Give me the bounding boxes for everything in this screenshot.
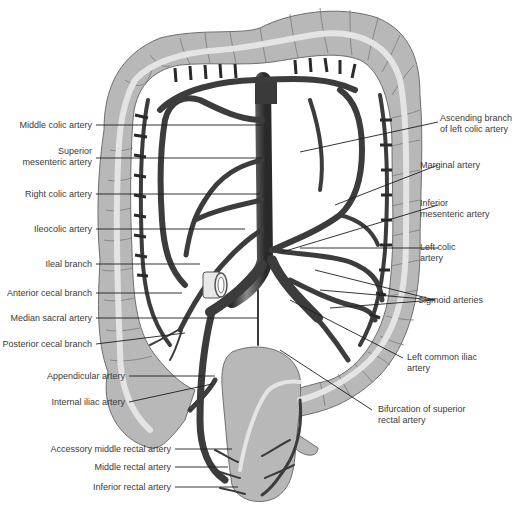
label-middle-rectal-artery: Middle rectal artery (94, 462, 171, 473)
label-internal-iliac-artery: Internal iliac artery (51, 397, 125, 408)
label-marginal-artery: Marginal artery (420, 160, 480, 171)
label-ileal-branch: Ileal branch (45, 259, 92, 270)
label-middle-colic-artery: Middle colic artery (19, 120, 92, 131)
label-median-sacral-artery: Median sacral artery (10, 313, 92, 324)
label-accessory-middle-rectal-artery: Accessory middle rectal artery (50, 444, 171, 455)
label-appendicular-artery: Appendicular artery (47, 371, 125, 382)
label-left-colic-artery-line2: artery (420, 253, 443, 264)
label-ileocolic-artery: Ileocolic artery (34, 224, 92, 235)
label-ascending-branch-left-colic: Ascending branch (440, 113, 512, 124)
label-bifurcation-superior-rectal-artery-line2: rectal artery (378, 415, 426, 426)
label-inferior-rectal-artery: Inferior rectal artery (93, 482, 171, 493)
label-left-common-iliac-artery: Left common iliac (407, 352, 477, 363)
label-posterior-cecal-branch: Posterior cecal branch (2, 339, 92, 350)
label-bifurcation-superior-rectal-artery: Bifurcation of superior (378, 404, 466, 415)
label-right-colic-artery: Right colic artery (25, 189, 92, 200)
label-superior-mesenteric-artery-line2: mesenteric artery (22, 157, 92, 168)
label-superior-mesenteric-artery: Superior (58, 146, 92, 157)
label-left-common-iliac-artery-line2: artery (407, 363, 430, 374)
label-inferior-mesenteric-artery: Inferior (420, 198, 448, 209)
label-sigmoid-arteries: Sigmoid arteries (418, 295, 483, 306)
label-ascending-branch-left-colic-line2: of left colic artery (440, 124, 508, 135)
label-anterior-cecal-branch: Anterior cecal branch (7, 288, 92, 299)
ileum-cut-end (203, 272, 227, 298)
label-left-colic-artery: Left colic (420, 242, 456, 253)
label-inferior-mesenteric-artery-line2: mesenteric artery (420, 209, 490, 220)
